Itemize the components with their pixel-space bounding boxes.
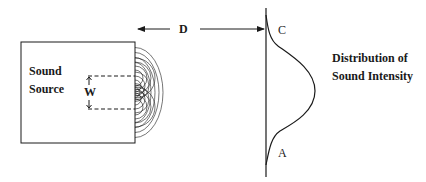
point-c-label: C: [278, 24, 286, 37]
sound-diffraction-diagram: Sound Source W D C A Distribution of Sou…: [0, 0, 426, 182]
distribution-label-line1: Distribution of: [332, 52, 408, 65]
point-a-label: A: [278, 147, 287, 160]
distribution-label-line2: Sound Intensity: [332, 70, 413, 83]
distance-label: D: [179, 23, 188, 36]
intensity-distribution-curve: [266, 15, 315, 165]
aperture-width-label: W: [84, 86, 96, 99]
sound-source-label-line1: Sound: [29, 65, 62, 78]
sound-source-label-line2: Source: [29, 83, 64, 96]
